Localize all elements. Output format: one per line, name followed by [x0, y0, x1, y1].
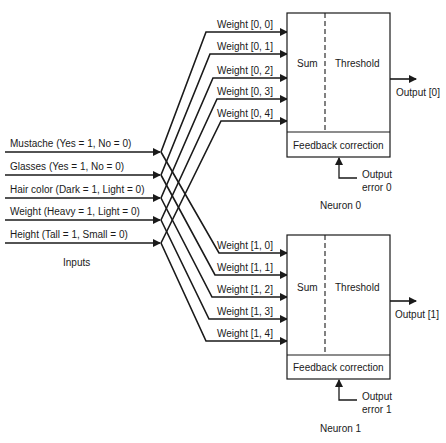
neuron-0-error-label-1: Output	[362, 169, 392, 180]
weight-connection	[161, 121, 287, 243]
weight-label: Weight [1, 2]	[217, 284, 273, 295]
neural-network-diagram: Mustache (Yes = 1, No = 0)Glasses (Yes =…	[0, 0, 446, 443]
inputs-group: Mustache (Yes = 1, No = 0)Glasses (Yes =…	[5, 138, 160, 243]
weight-label: Weight [0, 2]	[217, 65, 273, 76]
weight-label: Weight [0, 1]	[217, 41, 273, 52]
input-label: Height (Tall = 1, Small = 0)	[10, 229, 128, 240]
neuron-1-error-arrow	[339, 380, 357, 400]
weight-label: Weight [1, 0]	[217, 240, 273, 251]
input-label: Glasses (Yes = 1, No = 0)	[10, 161, 124, 172]
neuron-1-sum-label: Sum	[297, 282, 318, 293]
neuron-0-title: Neuron 0	[320, 200, 362, 211]
weight-label: Weight [0, 0]	[217, 19, 273, 30]
neuron-1-threshold-label: Threshold	[335, 282, 379, 293]
neuron-0-sum-label: Sum	[297, 58, 318, 69]
weight-label: Weight [0, 3]	[217, 86, 273, 97]
neuron-1: Sum Threshold Feedback correction Output…	[287, 235, 439, 434]
neuron-1-body	[287, 235, 390, 379]
weight-label: Weight [1, 4]	[217, 328, 273, 339]
neuron-0-error-label-2: error 0	[362, 182, 392, 193]
neuron-1-title: Neuron 1	[320, 423, 362, 434]
neuron-1-error-label-2: error 1	[362, 404, 392, 415]
weight-label: Weight [1, 3]	[217, 306, 273, 317]
weight-connections: Weight [0, 0]Weight [0, 1]Weight [0, 2]W…	[161, 19, 287, 341]
neuron-0-threshold-label: Threshold	[335, 58, 379, 69]
input-label: Mustache (Yes = 1, No = 0)	[10, 138, 131, 149]
input-label: Weight (Heavy = 1, Light = 0)	[10, 206, 140, 217]
weight-label: Weight [1, 1]	[217, 262, 273, 273]
neuron-0-output-label: Output [0]	[396, 87, 440, 98]
weight-connection	[161, 152, 287, 253]
neuron-1-feedback-label: Feedback correction	[293, 362, 384, 373]
neuron-0: Sum Threshold Feedback correction Output…	[287, 13, 440, 211]
neuron-1-output-label: Output [1]	[395, 309, 439, 320]
weight-label: Weight [0, 4]	[217, 108, 273, 119]
neuron-0-error-arrow	[339, 158, 357, 178]
neuron-0-feedback-label: Feedback correction	[293, 140, 384, 151]
input-label: Hair color (Dark = 1, Light = 0)	[10, 184, 145, 195]
neuron-1-error-label-1: Output	[362, 391, 392, 402]
neuron-0-body	[287, 13, 390, 157]
inputs-label: Inputs	[63, 257, 90, 268]
